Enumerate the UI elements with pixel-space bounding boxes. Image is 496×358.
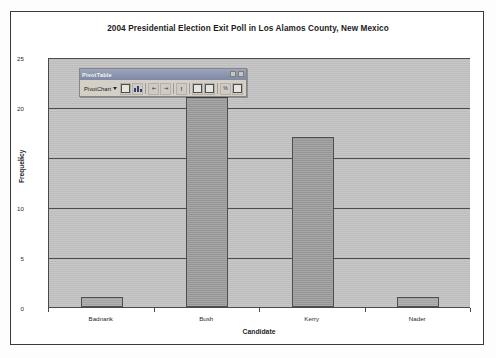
gridline: [49, 108, 470, 109]
field-settings-button[interactable]: %: [220, 83, 231, 95]
include-hidden-items-button[interactable]: [192, 83, 203, 95]
gridline: [49, 158, 470, 159]
table-icon: [193, 84, 202, 93]
hide-detail-icon: ⇤: [152, 86, 156, 91]
exclamation-icon: !: [181, 86, 183, 92]
hide-detail-button[interactable]: ⇤: [148, 83, 159, 95]
list-icon: [233, 84, 242, 93]
gridline: [49, 58, 470, 59]
pivottable-titlebar[interactable]: PivotTable: [80, 69, 246, 80]
x-tick-mark: [259, 308, 260, 312]
toolbar-separator: [216, 83, 219, 95]
figure-page: 2004 Presidential Election Exit Poll in …: [0, 0, 496, 358]
chart-icon: [134, 85, 141, 92]
grid-icon: [205, 84, 214, 93]
y-tick-label: 25: [0, 55, 24, 62]
field-list-button[interactable]: [120, 83, 131, 95]
gridline: [49, 208, 470, 209]
y-tick-label: 10: [0, 205, 24, 212]
toolbar-separator: [188, 83, 191, 95]
toolbar-separator: [144, 83, 147, 95]
x-tick-mark: [48, 308, 49, 312]
pivottable-toolbar-window[interactable]: PivotTable PivotChart ⇤ ⇥ ! %: [79, 68, 247, 97]
x-tick-mark: [470, 308, 471, 312]
show-detail-icon: ⇥: [164, 86, 168, 91]
chevron-down-icon: [113, 87, 117, 90]
bar-badnarik[interactable]: [81, 297, 123, 307]
close-icon[interactable]: [238, 71, 244, 77]
pivottable-toolbar-row: PivotChart ⇤ ⇥ ! %: [80, 80, 246, 97]
hide-field-list-button[interactable]: [232, 83, 243, 95]
window-buttons: [230, 71, 244, 77]
pivotchart-menu-button[interactable]: PivotChart: [82, 82, 119, 95]
x-tick-mark: [154, 308, 155, 312]
chart-title: 2004 Presidential Election Exit Poll in …: [0, 24, 496, 33]
x-tick-label: Nader: [409, 315, 426, 322]
x-tick-label: Badnarik: [89, 315, 113, 322]
y-tick-label: 20: [0, 105, 24, 112]
x-tick-mark: [365, 308, 366, 312]
x-axis-label: Candidate: [48, 328, 470, 335]
pivottable-title: PivotTable: [82, 72, 112, 78]
field-list-icon: [121, 84, 130, 93]
field-settings-icon: %: [223, 86, 227, 91]
pivotchart-menu-label: PivotChart: [84, 86, 111, 92]
chart-wizard-button[interactable]: [132, 83, 143, 95]
y-tick-label: 0: [0, 305, 24, 312]
show-detail-button[interactable]: ⇥: [160, 83, 171, 95]
x-tick-label: Bush: [199, 315, 213, 322]
toolbar-separator: [172, 83, 175, 95]
always-display-items-button[interactable]: [204, 83, 215, 95]
gridline: [49, 258, 470, 259]
y-tick-label: 5: [0, 255, 24, 262]
y-tick-label: 15: [0, 155, 24, 162]
minimize-button[interactable]: [230, 71, 236, 77]
refresh-data-button[interactable]: !: [176, 83, 187, 95]
bar-kerry[interactable]: [292, 137, 334, 307]
bar-nader[interactable]: [397, 297, 439, 307]
bar-bush[interactable]: [186, 97, 228, 307]
x-tick-label: Kerry: [304, 315, 319, 322]
